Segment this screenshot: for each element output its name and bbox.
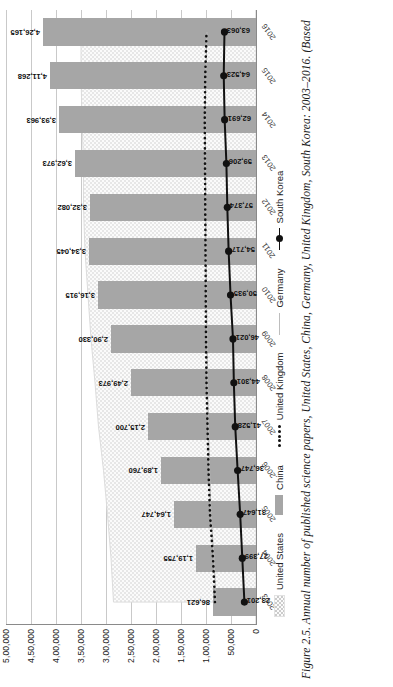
bar-value-label: 2,15,700	[116, 423, 146, 432]
legend-label: Germany	[274, 268, 285, 307]
bar-value-label: 3,32,082	[57, 203, 87, 212]
bar-value-label: 3,62,973	[42, 160, 72, 169]
bar-value-label: 2,90,330	[78, 335, 108, 344]
figure-page: 050,0001,00,0001,50,0002,00,0002,50,0003…	[0, 0, 393, 687]
legend-item-united-kingdom: United Kingdom	[274, 353, 285, 448]
legend-label: United States	[274, 533, 285, 590]
legend-item-germany: Germany	[274, 268, 285, 334]
area-swatch-icon	[274, 595, 285, 617]
y-axis-tick-label: 1,50,000	[176, 629, 186, 683]
y-axis-tick-label: 5,00,000	[1, 629, 11, 683]
bar-value-label: 4,26,165	[10, 28, 40, 37]
y-axis-tick-label: 4,00,000	[51, 629, 61, 683]
figure-caption: Figure 2.5. Annual number of published s…	[300, 7, 312, 679]
thin-line-icon	[279, 313, 280, 335]
y-axis-tick-label: 0	[251, 629, 261, 683]
y-axis-tick-label: 2,50,000	[126, 629, 136, 683]
bar-value-label: 4,11,268	[18, 72, 47, 81]
series-china-labels: 86,6211,19,7551,64,7471,89,7602,15,7002,…	[6, 10, 256, 624]
legend-item-united-states: United States	[274, 533, 285, 617]
line-marker-icon	[274, 228, 284, 250]
bar-value-label: 86,621	[186, 598, 209, 607]
chart-stage: 050,0001,00,0001,50,0002,00,0002,50,0003…	[0, 0, 393, 687]
legend-item-south-korea: South Korea	[274, 171, 285, 251]
bar-value-label: 3,34,045	[56, 247, 86, 256]
dotted-line-icon	[275, 425, 283, 447]
y-axis-tick-label: 50,000	[226, 629, 236, 683]
chart-legend: United States China United Kingdom Germa…	[268, 17, 290, 617]
bar-swatch-icon	[275, 495, 283, 515]
bar-value-label: 2,49,973	[98, 379, 128, 388]
y-axis-tick-label: 2,00,000	[151, 629, 161, 683]
y-axis-tick-label: 3,00,000	[101, 629, 111, 683]
bar-value-label: 3,93,963	[26, 116, 56, 125]
y-axis-tick-label: 4,50,000	[26, 629, 36, 683]
legend-label: South Korea	[274, 171, 285, 224]
plot-region: 23,20127,39931,64736,74741,52844,30146,0…	[6, 10, 257, 625]
y-axis-tick-label: 3,50,000	[76, 629, 86, 683]
legend-item-china: China	[274, 465, 285, 515]
bar-value-label: 3,16,915	[65, 291, 95, 300]
legend-label: United Kingdom	[274, 353, 285, 421]
bar-value-label: 1,19,755	[164, 554, 194, 563]
legend-label: China	[274, 465, 285, 490]
bar-value-label: 1,64,747	[141, 510, 171, 519]
bar-value-label: 1,89,760	[129, 467, 159, 476]
y-axis-tick-label: 1,00,000	[201, 629, 211, 683]
